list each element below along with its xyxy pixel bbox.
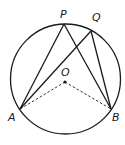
- circle-theorem-diagram: P Q O A B: [0, 0, 125, 145]
- segment-q-b: [91, 31, 111, 109]
- label-b: B: [112, 111, 120, 124]
- label-a: A: [7, 111, 16, 124]
- segment-p-b: [64, 24, 111, 109]
- label-p: P: [60, 8, 67, 21]
- label-q: Q: [92, 11, 101, 24]
- segment-a-q: [20, 31, 91, 109]
- label-o: O: [61, 66, 70, 79]
- circle: [11, 24, 121, 134]
- center-point-o: [63, 80, 66, 83]
